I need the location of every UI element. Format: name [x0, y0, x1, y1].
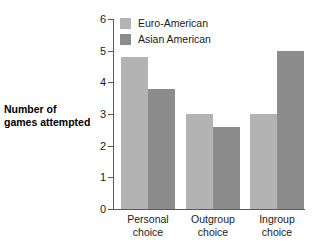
bar-ingroup-choice-asian-american [277, 51, 304, 209]
bar-outgroup-choice-asian-american [213, 127, 240, 209]
legend-label-euro-american: Euro-American [138, 18, 208, 29]
x-axis-label-line-1: Outgroup [176, 213, 250, 226]
y-axis-line [113, 19, 114, 210]
legend-swatch-icon-euro-american [120, 18, 131, 29]
legend-item-asian-american: Asian American [120, 33, 211, 46]
y-tick-mark [108, 114, 113, 115]
y-axis-title-line-2: games attempted [4, 116, 100, 129]
y-tick-label: 0 [100, 204, 106, 215]
y-tick-mark [108, 51, 113, 52]
legend-label-asian-american: Asian American [138, 34, 211, 45]
bar-outgroup-choice-euro-american [186, 114, 213, 209]
y-axis-title-line-1: Number of [4, 103, 100, 116]
x-axis-label-personal-choice: Personal choice [111, 213, 185, 238]
x-axis-label-line-2: choice [111, 226, 185, 239]
chart-plot-area: 0 1 2 3 4 5 6 Personal choice [113, 19, 305, 210]
x-axis-label-line-2: choice [240, 226, 314, 239]
y-tick-mark [108, 209, 113, 210]
x-axis-label-ingroup-choice: Ingroup choice [240, 213, 314, 238]
chart-legend: Euro-American Asian American [120, 17, 211, 49]
y-tick-label: 4 [100, 77, 106, 88]
y-tick-label: 5 [100, 45, 106, 56]
y-tick-label: 1 [100, 172, 106, 183]
x-axis-label-outgroup-choice: Outgroup choice [176, 213, 250, 238]
y-tick-mark [108, 177, 113, 178]
y-tick-label: 3 [100, 109, 106, 120]
y-tick-mark [108, 82, 113, 83]
y-axis-title: Number of games attempted [4, 103, 100, 129]
y-tick-mark [108, 19, 113, 20]
x-axis-line [113, 209, 305, 210]
legend-swatch-icon-asian-american [120, 34, 131, 45]
y-tick-label: 6 [100, 14, 106, 25]
x-axis-label-line-2: choice [176, 226, 250, 239]
bar-ingroup-choice-euro-american [250, 114, 277, 209]
bar-personal-choice-asian-american [148, 89, 175, 209]
x-axis-label-line-1: Ingroup [240, 213, 314, 226]
y-tick-label: 2 [100, 140, 106, 151]
legend-item-euro-american: Euro-American [120, 17, 211, 30]
bar-personal-choice-euro-american [121, 57, 148, 209]
x-axis-label-line-1: Personal [111, 213, 185, 226]
y-tick-mark [108, 146, 113, 147]
